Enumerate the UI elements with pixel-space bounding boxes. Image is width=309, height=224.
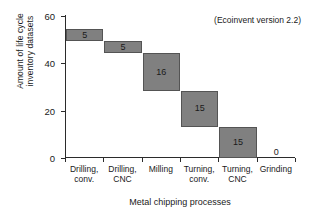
- y-tick-label-40: 40: [44, 58, 55, 69]
- bar-drilling-cnc: 5: [104, 41, 141, 53]
- x-tick-mark-1: [103, 158, 104, 162]
- y-tick-label-0: 0: [50, 153, 55, 164]
- x-tick-label-milling: Milling: [142, 164, 180, 174]
- bar-value-turning-conv: 15: [195, 104, 205, 113]
- chart-figure: Amount of life cycle inventory datasets …: [0, 0, 309, 224]
- bar-value-milling: 16: [156, 68, 166, 77]
- y-tick-label-60: 60: [44, 11, 55, 22]
- x-tick-mark-0: [65, 158, 66, 162]
- x-tick-labels: Drilling, conv. Drilling, CNC Milling Tu…: [65, 164, 295, 190]
- y-tick-mark-60: 60: [61, 16, 65, 17]
- x-tick-label-turning-cnc-line-1: Turning,: [218, 164, 256, 174]
- bar-value-grinding: 0: [274, 148, 279, 157]
- x-tick-label-turning-cnc-line-2: CNC: [218, 174, 256, 184]
- y-axis-title-line-2: inventory datasets: [25, 16, 36, 87]
- x-tick-label-drilling-conv-line-1: Drilling,: [65, 164, 103, 174]
- x-tick-label-grinding: Grinding: [257, 164, 295, 174]
- x-tick-label-drilling-conv: Drilling, conv.: [65, 164, 103, 184]
- x-tick-label-drilling-conv-line-2: conv.: [65, 174, 103, 184]
- bar-value-drilling-cnc: 5: [120, 43, 125, 52]
- x-tick-label-turning-conv-line-2: conv.: [180, 174, 218, 184]
- x-tick-label-milling-line-1: Milling: [142, 164, 180, 174]
- x-tick-mark-4: [218, 158, 219, 162]
- bar-turning-cnc: 15: [219, 127, 256, 159]
- x-tick-mark-5: [257, 158, 258, 162]
- bar-value-drilling-conv: 5: [82, 31, 87, 40]
- bar-turning-conv: 15: [181, 91, 218, 127]
- x-tick-mark-3: [180, 158, 181, 162]
- x-axis-title: Metal chipping processes: [65, 197, 295, 207]
- x-tick-label-drilling-cnc: Drilling, CNC: [103, 164, 141, 184]
- y-tick-mark-40: 40: [61, 63, 65, 64]
- x-tick-label-drilling-cnc-line-1: Drilling,: [103, 164, 141, 174]
- plot-area: 0 20 40 60 5 5 16: [65, 16, 295, 158]
- y-tick-label-20: 20: [44, 105, 55, 116]
- x-tick-label-grinding-line-1: Grinding: [257, 164, 295, 174]
- bar-drilling-conv: 5: [66, 29, 103, 41]
- y-axis-title-line-1: Amount of life cycle: [15, 13, 26, 89]
- x-tick-mark-6: [295, 158, 296, 162]
- bar-value-turning-cnc: 15: [233, 138, 243, 147]
- x-tick-label-turning-conv: Turning, conv.: [180, 164, 218, 184]
- bar-milling: 16: [143, 53, 180, 91]
- bar-grinding: 0: [258, 138, 295, 158]
- x-tick-label-turning-conv-line-1: Turning,: [180, 164, 218, 174]
- x-tick-mark-2: [142, 158, 143, 162]
- x-tick-label-turning-cnc: Turning, CNC: [218, 164, 256, 184]
- x-tick-label-drilling-cnc-line-2: CNC: [103, 174, 141, 184]
- y-tick-mark-20: 20: [61, 111, 65, 112]
- y-axis-title: Amount of life cycle inventory datasets: [12, 0, 38, 131]
